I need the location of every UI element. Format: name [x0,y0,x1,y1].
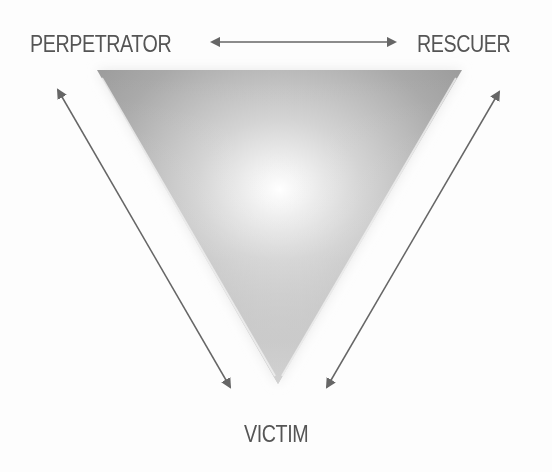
victim-label: VICTIM [244,420,308,448]
drama-triangle-diagram [0,0,552,472]
rescuer-label: RESCUER [417,30,510,58]
perpetrator-label: PERPETRATOR [30,30,171,58]
triangle-fade [97,70,462,384]
